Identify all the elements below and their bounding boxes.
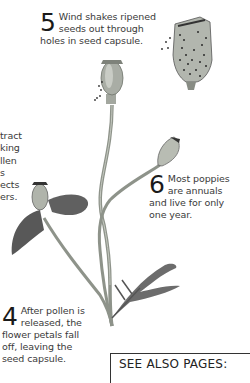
step-number: 5: [40, 12, 56, 34]
see-also-pages-box: SEE ALSO PAGES:: [110, 353, 250, 383]
poppy-leaf: [112, 264, 180, 318]
caption-line: ers.: [0, 191, 30, 203]
caption-step-3-partial: tract king llen s ects ers.: [0, 130, 30, 204]
caption-line: tract: [0, 130, 30, 142]
caption-line: king: [0, 142, 30, 154]
caption-step-5: 5 Wind shakes ripened seeds out through …: [40, 11, 160, 47]
seed-capsule-cutaway: [161, 17, 212, 90]
caption-line: s: [0, 167, 30, 179]
step-number: 6: [149, 174, 165, 196]
step-number: 4: [2, 306, 18, 328]
see-also-label: SEE ALSO PAGES:: [119, 357, 227, 371]
young-seed-capsule: [158, 137, 180, 166]
caption-text: Wind shakes ripened seeds out through ho…: [40, 11, 156, 46]
caption-step-6: 6 Most poppies are annuals and live for …: [149, 173, 241, 221]
caption-step-4: 4 After pollen is released, the flower p…: [2, 305, 94, 365]
caption-line: llen: [0, 155, 30, 167]
ripe-seed-capsule: [94, 60, 123, 104]
caption-line: ects: [0, 179, 30, 191]
